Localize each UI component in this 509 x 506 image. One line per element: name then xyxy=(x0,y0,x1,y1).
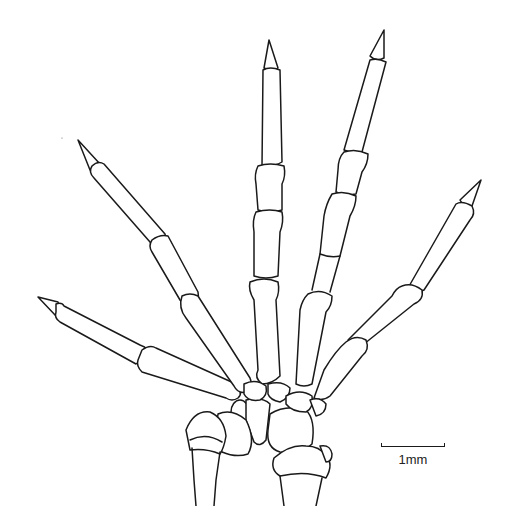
metacarpal xyxy=(250,279,281,384)
phalanx-middle xyxy=(348,285,422,345)
scale-bar-label: 1mm xyxy=(381,452,445,467)
scale-bar-line xyxy=(381,443,445,447)
claw xyxy=(264,40,278,70)
metacarpal xyxy=(314,337,367,399)
ulna xyxy=(273,446,332,506)
phalanx xyxy=(56,303,149,364)
phalanx-3 xyxy=(320,192,356,256)
hand-skeleton-figure: 1mm xyxy=(0,0,509,506)
carpal-upper-a xyxy=(244,381,266,400)
connector xyxy=(312,254,340,292)
stray-dot xyxy=(61,137,62,138)
scale-bar: 1mm xyxy=(381,438,445,478)
radius-shaft xyxy=(192,448,220,506)
phalanx-1 xyxy=(344,59,386,152)
phalanx-3 xyxy=(253,210,282,278)
phalanx-1 xyxy=(262,68,282,166)
hand-skeleton-drawing xyxy=(0,0,509,506)
phalanx-2 xyxy=(336,150,368,194)
claw xyxy=(370,30,384,60)
ulna-shaft xyxy=(280,476,322,506)
phalanx-distal xyxy=(408,202,474,291)
carpal-right-small xyxy=(310,399,326,416)
phalanx-distal xyxy=(90,162,165,246)
digit-3 xyxy=(250,40,285,384)
radius xyxy=(186,412,226,506)
phalanx-2 xyxy=(255,164,284,212)
